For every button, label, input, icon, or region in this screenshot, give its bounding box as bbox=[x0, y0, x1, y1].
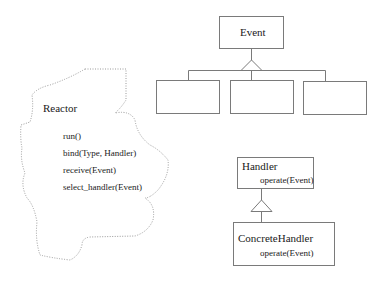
reactor-method-run: run() bbox=[63, 132, 81, 141]
reactor-title: Reactor bbox=[43, 103, 77, 114]
concrete-handler-box bbox=[234, 223, 335, 266]
event-subclass-box-3 bbox=[304, 82, 367, 115]
handler-title: Handler bbox=[242, 161, 277, 172]
concrete-handler-title: ConcreteHandler bbox=[238, 233, 313, 244]
reactor-method-receive: receive(Event) bbox=[63, 166, 116, 175]
reactor-method-bind: bind(Type, Handler) bbox=[63, 149, 136, 158]
concrete-handler-method-operate: operate(Event) bbox=[260, 249, 313, 258]
handler-generalization-triangle bbox=[251, 200, 272, 212]
reactor-method-select-handler: select_handler(Event) bbox=[63, 183, 142, 192]
event-subclass-box-2 bbox=[231, 81, 294, 114]
event-title: Event bbox=[240, 27, 266, 38]
diagram-lines bbox=[0, 0, 385, 281]
generalization-triangle bbox=[241, 60, 262, 71]
event-subclass-box-1 bbox=[157, 81, 220, 114]
handler-method-operate: operate(Event) bbox=[260, 176, 313, 185]
diagram-canvas: Reactor run() bind(Type, Handler) receiv… bbox=[0, 0, 385, 281]
